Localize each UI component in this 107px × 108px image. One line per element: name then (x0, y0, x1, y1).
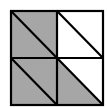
fraction-grid-diagram (0, 0, 107, 108)
